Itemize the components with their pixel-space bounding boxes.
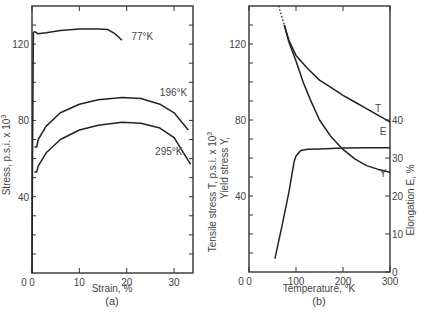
origin-label: 0 <box>21 277 27 288</box>
y-right-tick-label: 0 <box>392 267 398 278</box>
x-tick-label: 0 <box>246 276 252 287</box>
series-line-77K <box>32 29 122 273</box>
series-label: 295°K <box>155 146 183 157</box>
origin-label: 0 <box>238 276 244 287</box>
x-tick-label: 10 <box>74 277 86 288</box>
series-line-196K <box>34 98 188 148</box>
panel-b-label: (b) <box>312 295 325 307</box>
y-axis-label-b-tensile: Tensile stress T, p.s.i. x 103 <box>206 132 218 253</box>
y-right-tick-label: 40 <box>392 115 404 126</box>
y-tick-label: 80 <box>18 115 30 126</box>
y-tick-label: 120 <box>229 39 246 50</box>
y-tick-label: 120 <box>12 39 29 50</box>
x-axis-label-b: Temperature, °K <box>283 283 356 294</box>
y-axis-label-b-yield: Yield stress Y, <box>219 137 230 199</box>
series-label: 77°K <box>131 31 153 42</box>
x-axis-label-a: Strain, % <box>92 283 133 294</box>
series-extrapolation <box>279 6 285 25</box>
y-right-tick-label: 30 <box>392 153 404 164</box>
y-tick-label: 40 <box>235 191 247 202</box>
plot-frame <box>249 6 390 272</box>
series-label: E <box>380 126 387 137</box>
panel-a-stress-strain: 01020304080120077°K196°K295°K <box>12 6 193 288</box>
x-tick-label: 0 <box>29 277 35 288</box>
series-label: 196°K <box>160 87 188 98</box>
series-label: Y <box>380 168 387 179</box>
panel-b-temperature: 010020030040801200010203040TYE <box>229 6 403 287</box>
y-axis-label-a: Stress, p.s.i. x 103 <box>0 115 12 196</box>
figure: 01020304080120077°K196°K295°K 0100200300… <box>0 0 421 313</box>
x-tick-label: 30 <box>168 277 180 288</box>
series-line-E <box>275 148 390 259</box>
y-axis-label-b-right: Elongation E, % <box>405 164 416 235</box>
y-right-tick-label: 10 <box>392 229 404 240</box>
y-tick-label: 40 <box>18 192 30 203</box>
plot-frame <box>32 6 193 273</box>
panel-a-label: (a) <box>105 295 118 307</box>
y-tick-label: 80 <box>235 115 247 126</box>
series-label: T <box>375 103 381 114</box>
y-right-tick-label: 20 <box>392 191 404 202</box>
